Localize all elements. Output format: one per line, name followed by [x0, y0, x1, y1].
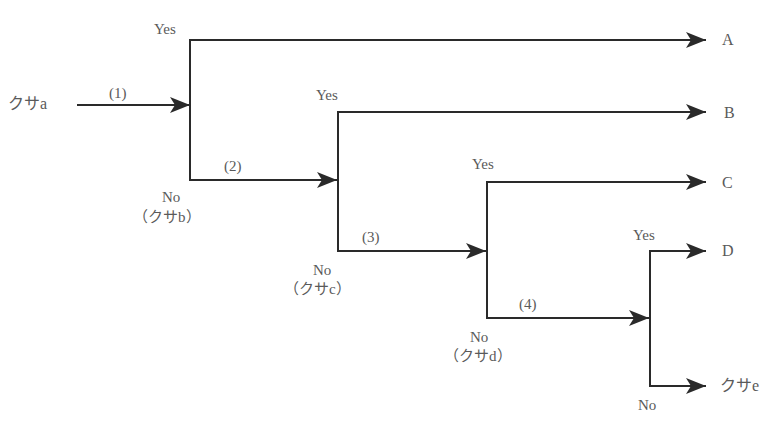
yes-label-4: Yes — [633, 228, 655, 243]
no-label-3: No — [470, 330, 488, 345]
no-label-4: No — [638, 398, 656, 413]
decision-tree-lines — [0, 0, 782, 432]
step-label-3: (3) — [362, 230, 380, 245]
result-c: C — [722, 175, 733, 191]
no-label-2: No — [313, 263, 331, 278]
result-b: B — [724, 105, 735, 121]
step-label-1: (1) — [109, 86, 127, 101]
result-kusa-e: クサe — [720, 378, 759, 394]
result-a: A — [722, 32, 734, 48]
yes-label-1: Yes — [154, 22, 176, 37]
yes-label-2: Yes — [316, 88, 338, 103]
no-sub-1: （クサb） — [133, 210, 201, 225]
step-label-2: (2) — [224, 159, 242, 174]
input-label: クサa — [8, 96, 47, 112]
step-label-4: (4) — [519, 297, 537, 312]
no-sub-2: （クサc） — [284, 282, 351, 297]
no-label-1: No — [162, 190, 180, 205]
yes-label-3: Yes — [472, 157, 494, 172]
no-sub-3: （クサd） — [444, 349, 512, 364]
result-d: D — [722, 243, 734, 259]
